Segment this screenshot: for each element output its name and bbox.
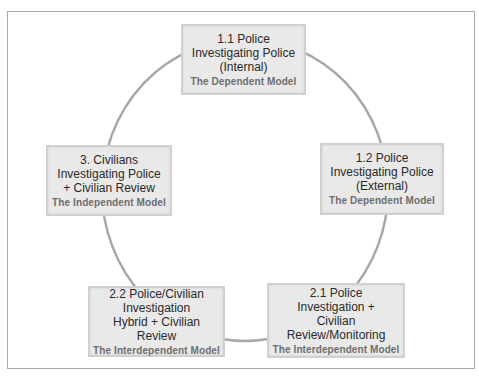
node-title: 1.2 Police Investigating Police (Externa… xyxy=(330,151,433,193)
node-2-1-police-investigation: 2.1 Police Investigation + Civilian Revi… xyxy=(267,283,405,358)
node-model-label: The Dependent Model xyxy=(191,75,297,88)
node-title: 1.1 Police Investigating Police (Interna… xyxy=(192,32,295,74)
node-model-label: The Dependent Model xyxy=(329,194,435,207)
node-title: 3. Civilians Investigating Police + Civi… xyxy=(57,153,160,195)
node-1-1-internal: 1.1 Police Investigating Police (Interna… xyxy=(181,24,306,95)
node-model-label: The Interdependent Model xyxy=(93,344,220,357)
node-1-2-external: 1.2 Police Investigating Police (Externa… xyxy=(320,143,444,215)
node-2-2-hybrid: 2.2 Police/Civilian Investigation Hybrid… xyxy=(88,286,225,357)
node-model-label: The Independent Model xyxy=(52,196,166,209)
node-title: 2.1 Police Investigation + Civilian Revi… xyxy=(287,286,386,342)
node-3-civilians: 3. Civilians Investigating Police + Civi… xyxy=(46,145,172,216)
node-model-label: The Interdependent Model xyxy=(273,343,400,356)
node-title: 2.2 Police/Civilian Investigation Hybrid… xyxy=(109,287,204,343)
